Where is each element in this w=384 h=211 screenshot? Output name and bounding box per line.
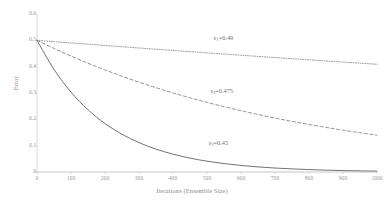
axis-lines — [35, 14, 377, 174]
series-line-eps2 — [37, 40, 377, 135]
plot-area — [0, 0, 384, 211]
series-line-eps3 — [37, 40, 377, 171]
series-line-eps1 — [37, 40, 377, 64]
eps1-annotation: ε1=0.49 — [214, 35, 233, 41]
eps1-annotation-subscript: 1 — [216, 37, 218, 42]
eps1-annotation-value: =0.49 — [219, 34, 234, 41]
eps3-annotation-subscript: 3 — [211, 142, 213, 147]
eps3-annotation-value: =0.45 — [214, 139, 229, 146]
eps2-annotation-value: =0.475 — [215, 87, 233, 94]
eps3-annotation: ε3=0.45 — [209, 140, 228, 146]
eps2-annotation: ε2=0.475 — [210, 88, 233, 94]
eps2-annotation-subscript: 2 — [213, 90, 215, 95]
gridlines — [37, 14, 377, 172]
chart-container: Error 00.10.20.30.40.50.6 01002003004005… — [0, 0, 384, 211]
series-lines — [37, 40, 377, 171]
